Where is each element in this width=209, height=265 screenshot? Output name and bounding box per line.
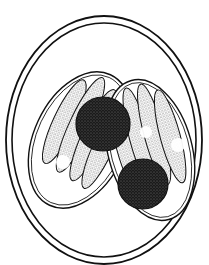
nucleus-right-2 [171,138,185,152]
residual-body-right [118,159,168,209]
nucleus-left [56,155,70,169]
residual-body-left [76,97,130,151]
nucleus-left-2 [48,182,60,194]
nucleus-right [140,126,152,138]
oocyst-illustration [0,0,209,265]
